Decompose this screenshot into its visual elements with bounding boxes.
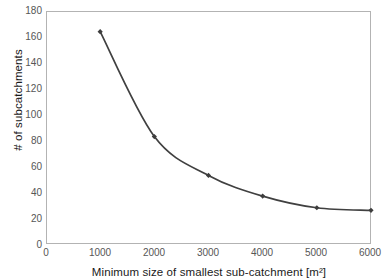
- x-tick-label: 4000: [232, 248, 292, 258]
- x-tick-label: 1000: [70, 248, 130, 258]
- x-tick-label: 2000: [124, 248, 184, 258]
- x-tick-label: 6000: [340, 248, 384, 258]
- x-tick-label: 0: [16, 248, 76, 258]
- x-tick-label: 3000: [178, 248, 238, 258]
- chart-figure: # of subcatchments 180 160 140 120 100 8…: [0, 0, 384, 278]
- x-axis-ticks: 0 1000 2000 3000 4000 5000 6000: [0, 0, 384, 278]
- x-tick-label: 5000: [286, 248, 346, 258]
- x-axis-title: Minimum size of smallest sub-catchment […: [46, 266, 372, 278]
